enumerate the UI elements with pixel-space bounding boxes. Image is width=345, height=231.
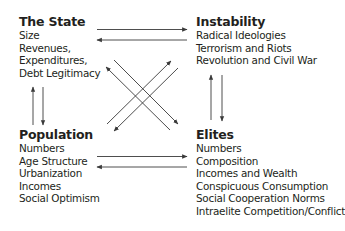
arrow-population-to-instability — [107, 61, 171, 124]
arrow-state-to-elites — [114, 60, 178, 124]
arrow-instability-to-population — [114, 68, 178, 131]
arrow-elites-to-state — [106, 67, 170, 130]
